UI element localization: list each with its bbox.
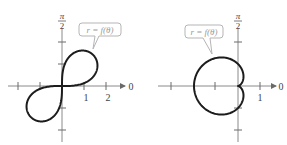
left-pi-denominator: 2: [60, 21, 65, 31]
left-tick-label-1: 1: [84, 92, 89, 103]
right-polar-axis-label: 0: [279, 81, 284, 92]
left-pi-numerator: π: [60, 11, 65, 21]
right-polar-graph: 1 0 π 2 r = f(θ): [158, 11, 284, 142]
right-tick-label-1: 1: [258, 92, 263, 103]
right-pi-numerator: π: [236, 11, 241, 21]
right-callout-label: r = f(θ): [191, 27, 218, 37]
left-callout-label: r = f(θ): [87, 25, 114, 35]
left-polar-graph: 1 2 0 π 2 r = f(θ): [8, 11, 134, 142]
polar-graphs-figure: 1 2 0 π 2 r = f(θ) 1 0 π 2 r = f(θ): [0, 0, 287, 145]
left-tick-label-2: 2: [106, 92, 111, 103]
left-polar-axis-label: 0: [129, 81, 134, 92]
right-pi-denominator: 2: [236, 21, 241, 31]
